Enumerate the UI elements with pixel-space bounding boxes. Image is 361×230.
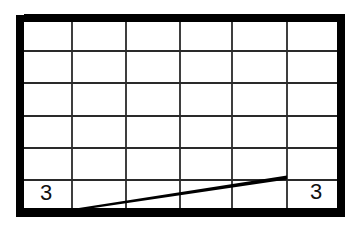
grid-diagram-canvas	[0, 0, 361, 230]
label-right-three: 3	[310, 181, 322, 203]
border-left	[16, 15, 24, 217]
grid-diagram: 3 3	[0, 0, 361, 230]
label-left-three: 3	[40, 182, 52, 204]
border-right	[337, 22, 345, 217]
border-top	[24, 14, 345, 22]
